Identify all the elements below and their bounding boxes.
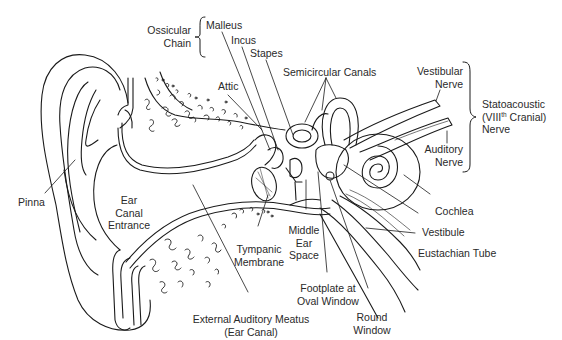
label-attic: Attic <box>218 80 238 93</box>
label-middle-ear-space: Middle Ear Space <box>285 224 323 262</box>
label-eustachian-tube: Eustachian Tube <box>418 247 496 260</box>
label-statoacoustic-nerve: Statoacoustic (VIIIth Cranial) Nerve <box>482 98 546 136</box>
pinna-shape <box>41 55 150 331</box>
label-statoacoustic-line2-pre: (VIII <box>482 111 501 123</box>
label-ossicular-chain-line1: Ossicular <box>140 24 191 37</box>
label-eam-line2: (Ear Canal) <box>192 326 310 339</box>
label-eam-line1: External Auditory Meatus <box>192 313 310 326</box>
label-statoacoustic-line2-post: Cranial) <box>507 111 547 123</box>
label-semicircular-canals: Semicircular Canals <box>283 66 376 79</box>
label-malleus: Malleus <box>206 19 242 32</box>
label-footplate-line2: Oval Window <box>296 295 360 308</box>
label-auditory-nerve-line1: Auditory <box>415 143 463 156</box>
label-round-window: Round Window <box>352 311 392 336</box>
label-incus: Incus <box>231 34 256 47</box>
label-round-window-line1: Round <box>352 311 392 324</box>
label-pinna: Pinna <box>18 196 45 209</box>
label-middle-ear-space-line1: Middle <box>285 224 323 237</box>
label-vestibular-nerve-line2: Nerve <box>410 78 463 91</box>
label-tympanic-membrane-line2: Membrane <box>232 256 286 269</box>
middle-ear-shape <box>248 135 320 205</box>
ear-anatomy-diagram: Ossicular Chain Malleus Incus Stapes Sem… <box>0 0 562 340</box>
label-cochlea: Cochlea <box>435 205 474 218</box>
label-footplate-oval-window: Footplate at Oval Window <box>296 282 360 307</box>
label-statoacoustic-line3: Nerve <box>482 123 546 136</box>
label-stapes: Stapes <box>250 47 283 60</box>
label-auditory-nerve-line2: Nerve <box>415 156 463 169</box>
label-vestibular-nerve: Vestibular Nerve <box>410 65 463 90</box>
label-vestibule: Vestibule <box>422 226 465 239</box>
label-vestibular-nerve-line1: Vestibular <box>410 65 463 78</box>
label-ear-canal-entrance: Ear Canal Entrance <box>104 194 154 232</box>
label-middle-ear-space-line3: Space <box>285 249 323 262</box>
label-ear-canal-entrance-line3: Entrance <box>104 219 154 232</box>
label-ear-canal-entrance-line2: Canal <box>104 207 154 220</box>
label-tympanic-membrane-line1: Tympanic <box>232 243 286 256</box>
label-ear-canal-entrance-line1: Ear <box>104 194 154 207</box>
label-auditory-nerve: Auditory Nerve <box>415 143 463 168</box>
label-footplate-line1: Footplate at <box>296 282 360 295</box>
label-ossicular-chain: Ossicular Chain <box>140 24 191 49</box>
label-middle-ear-space-line2: Ear <box>285 237 323 250</box>
label-round-window-line2: Window <box>352 324 392 337</box>
label-statoacoustic-line1: Statoacoustic <box>482 98 546 111</box>
label-ossicular-chain-line2: Chain <box>140 37 191 50</box>
label-external-auditory-meatus: External Auditory Meatus (Ear Canal) <box>192 313 310 338</box>
label-statoacoustic-line2: (VIIIth Cranial) <box>482 111 546 124</box>
label-tympanic-membrane: Tympanic Membrane <box>232 243 286 268</box>
